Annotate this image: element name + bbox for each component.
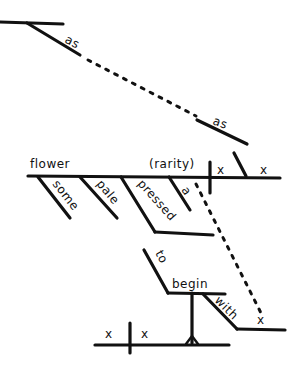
base-verb-placeholder-x: x: [141, 327, 149, 341]
word-pale: pale: [94, 177, 123, 207]
verb-placeholder-x: x: [217, 163, 225, 177]
object-placeholder-x: x: [260, 163, 268, 177]
word-to: to: [152, 248, 170, 266]
prep-object-placeholder-x: x: [257, 313, 265, 327]
word-as-1: as: [63, 32, 82, 51]
connector-dotted-1: [88, 60, 196, 116]
prep-object-line: [237, 329, 285, 330]
word-flower: flower: [30, 157, 70, 171]
sentence-diagram: as as flower (rarity) x x some pale pres…: [0, 0, 305, 374]
word-rarity: (rarity): [149, 157, 195, 171]
word-some: some: [50, 177, 82, 213]
base-subject-placeholder-x: x: [105, 327, 113, 341]
modifier-base-pressed: [155, 232, 213, 235]
complement-slant: [234, 153, 246, 176]
verb-line-begin: [168, 293, 225, 294]
top-baseline: [0, 22, 63, 24]
word-begin: begin: [172, 277, 208, 291]
main-baseline: [28, 176, 280, 178]
